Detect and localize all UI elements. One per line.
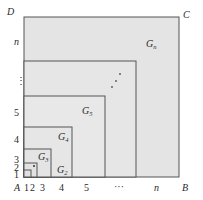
- y-label-5: 5: [14, 107, 19, 118]
- square-1: [24, 170, 31, 177]
- corner-dot: [33, 165, 35, 167]
- corner-label-b: B: [182, 182, 188, 193]
- x-label-3: 3: [40, 182, 45, 193]
- diagonal-dot: [111, 86, 113, 88]
- diagonal-dot: [119, 73, 121, 75]
- y-label-n: n: [14, 36, 19, 47]
- x-label-4: 4: [59, 182, 64, 193]
- nested-squares-diagram: D C A B 1 2 3 4 5 ··· n 1 2 3 4 5 ⋮ n G2…: [0, 0, 203, 200]
- y-label-3: 3: [14, 154, 19, 165]
- diagonal-dot: [115, 80, 117, 82]
- x-label-1: 1: [24, 182, 29, 193]
- y-label-vellipsis: ⋮: [16, 75, 26, 86]
- x-label-2: 2: [30, 182, 35, 193]
- y-label-4: 4: [14, 134, 19, 145]
- corner-label-d: D: [6, 6, 15, 17]
- x-label-n: n: [154, 182, 159, 193]
- x-label-ellipsis: ···: [114, 181, 124, 192]
- corner-label-a: A: [13, 182, 21, 193]
- corner-label-c: C: [183, 9, 190, 20]
- x-label-5: 5: [84, 182, 89, 193]
